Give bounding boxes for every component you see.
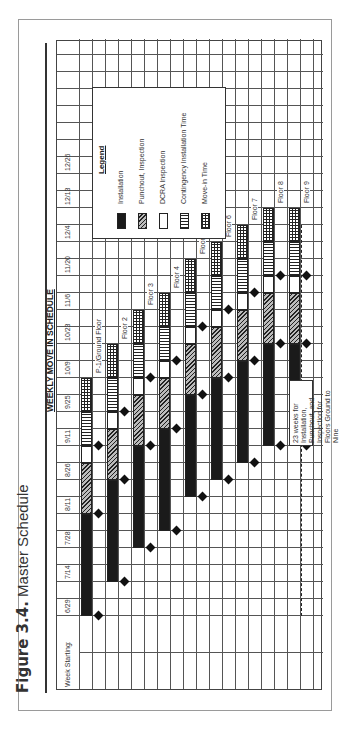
figure-title-text: Master Schedule [14, 484, 31, 597]
grid-line-vertical [57, 564, 323, 565]
bar-cont [289, 242, 300, 276]
bar-dcra [211, 310, 222, 327]
annotation-box: 23 weeks for Installation, Punchout, and… [289, 380, 313, 446]
bar-dcra [289, 276, 300, 293]
grid-line-horizontal [287, 39, 288, 689]
bar-install [81, 514, 92, 616]
grid-line-vertical [57, 547, 323, 548]
bar-move [107, 344, 118, 378]
legend-label: Contingency Installation Time [180, 99, 188, 204]
rotated-page: Figure 3.4. Master Schedule Week Startin… [0, 0, 348, 733]
floor-label: Floor 9 [303, 180, 310, 204]
bar-move [289, 208, 300, 242]
legend-title: Legend [97, 146, 106, 174]
bar-cont [263, 242, 274, 276]
week-label: 10/23 [64, 323, 71, 341]
milestone-diamond [120, 475, 130, 485]
bar-punch [81, 463, 92, 514]
week-label: 9/11 [64, 430, 71, 443]
bar-punch [133, 395, 144, 446]
milestone-diamond [172, 526, 182, 536]
bar-dcra [107, 412, 118, 429]
bar-punch [263, 293, 274, 344]
bar-punch [159, 378, 170, 429]
legend-label: Move-in Time [201, 99, 209, 204]
milestone-diamond [94, 509, 104, 519]
grid-line-vertical [57, 530, 323, 531]
gantt-grid: Week Starting:6/297/147/288/118/269/119/… [56, 40, 322, 690]
legend-swatch-punch [138, 213, 147, 229]
bar-move [159, 293, 170, 327]
bar-move [263, 208, 274, 242]
grid-line-horizontal [274, 39, 275, 689]
bar-move [133, 310, 144, 344]
grid-line-vertical [57, 71, 323, 72]
milestone-diamond [250, 458, 260, 468]
bar-install [263, 344, 274, 446]
floor-label: P-1/Ground Floor [95, 318, 102, 374]
bar-install [107, 480, 118, 582]
milestone-diamond [94, 611, 104, 621]
bar-move [81, 378, 92, 412]
milestone-diamond [94, 441, 104, 451]
grid-line-vertical [57, 54, 323, 55]
bar-punch [237, 310, 248, 361]
bar-dcra [185, 327, 196, 344]
milestone-diamond [146, 543, 156, 553]
legend-label: Punchout, Inspection [138, 99, 146, 204]
milestone-diamond [302, 271, 312, 281]
floor-label: Floor 3 [147, 282, 154, 306]
milestone-diamond [224, 475, 234, 485]
milestone-diamond [250, 356, 260, 366]
legend-swatch-move [201, 213, 210, 229]
floor-label: Floor 7 [251, 197, 258, 221]
milestone-diamond [276, 441, 286, 451]
bar-move [237, 225, 248, 259]
bar-punch [107, 429, 118, 480]
milestone-diamond [276, 271, 286, 281]
week-label: 9/25 [64, 395, 71, 409]
milestone-diamond [250, 288, 260, 298]
week-label: 6/29 [64, 599, 71, 613]
bar-cont [81, 412, 92, 446]
grid-line-vertical [57, 598, 323, 599]
bar-dcra [237, 293, 248, 310]
week-starting-label: Week Starting: [64, 641, 71, 687]
milestone-diamond [120, 577, 130, 587]
week-label: 7/28 [64, 531, 71, 545]
figure-number: Figure 3.4. [14, 601, 32, 693]
floor-label: Floor 2 [121, 316, 128, 340]
bar-install [211, 378, 222, 480]
week-label: 11/6 [64, 294, 71, 307]
milestone-diamond [198, 492, 208, 502]
bar-install [237, 361, 248, 463]
grid-line-horizontal [261, 39, 262, 689]
bar-install [133, 446, 144, 548]
grid-line-horizontal [235, 39, 236, 689]
grid-line-horizontal [79, 39, 80, 689]
milestone-diamond [172, 356, 182, 366]
bar-install [159, 429, 170, 531]
bar-dcra [133, 378, 144, 395]
bar-cont [159, 327, 170, 361]
week-label: 8/26 [64, 463, 71, 477]
bar-install [185, 395, 196, 497]
week-label: 11/20 [64, 256, 71, 273]
bar-dcra [263, 276, 274, 293]
milestone-diamond [120, 407, 130, 417]
figure-title: Figure 3.4. Master Schedule [14, 484, 32, 693]
milestone-diamond [302, 339, 312, 349]
grid-line-vertical [57, 581, 323, 582]
bar-punch [289, 293, 300, 344]
grid-line-horizontal [313, 39, 314, 689]
floor-label: Floor 6 [225, 214, 232, 238]
legend-swatch-dcra [159, 213, 168, 229]
floor-label: Floor 8 [277, 180, 284, 204]
bar-cont [107, 378, 118, 412]
week-label: 12/26 [64, 153, 71, 171]
bar-cont [133, 344, 144, 378]
week-label: 10/9 [64, 361, 71, 375]
week-label: 7/14 [64, 565, 71, 579]
bar-move [185, 259, 196, 293]
milestone-diamond [172, 424, 182, 434]
